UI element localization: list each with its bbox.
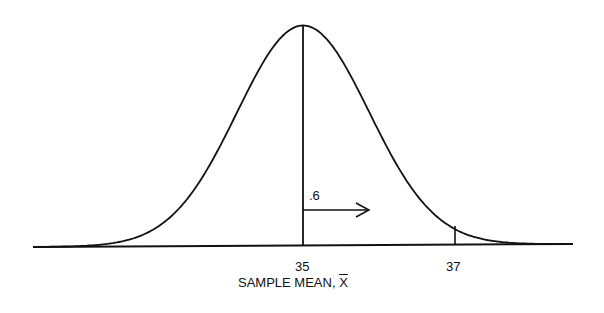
x-axis-title-text: SAMPLE MEAN, — [238, 275, 339, 290]
x-bar-symbol: X — [339, 275, 348, 290]
tick-label-37: 37 — [446, 259, 460, 274]
x-axis-title: SAMPLE MEAN, X — [238, 275, 348, 290]
arrow-icon — [303, 203, 369, 217]
arrow-label: .6 — [309, 188, 320, 203]
tick-label-35: 35 — [295, 259, 309, 274]
